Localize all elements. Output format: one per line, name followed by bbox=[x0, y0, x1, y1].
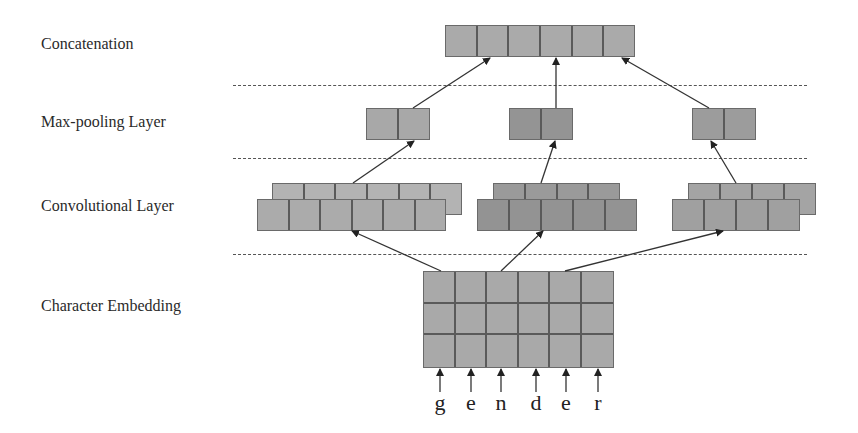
connection-arrows bbox=[0, 0, 858, 433]
arrow-icon bbox=[541, 141, 555, 183]
arrow-icon bbox=[353, 141, 414, 183]
arrow-icon bbox=[501, 231, 543, 271]
arrow-icon bbox=[565, 231, 723, 271]
arrow-icon bbox=[622, 58, 709, 108]
arrow-icon bbox=[413, 58, 490, 108]
arrow-icon bbox=[711, 141, 736, 183]
arrow-icon bbox=[352, 231, 441, 271]
